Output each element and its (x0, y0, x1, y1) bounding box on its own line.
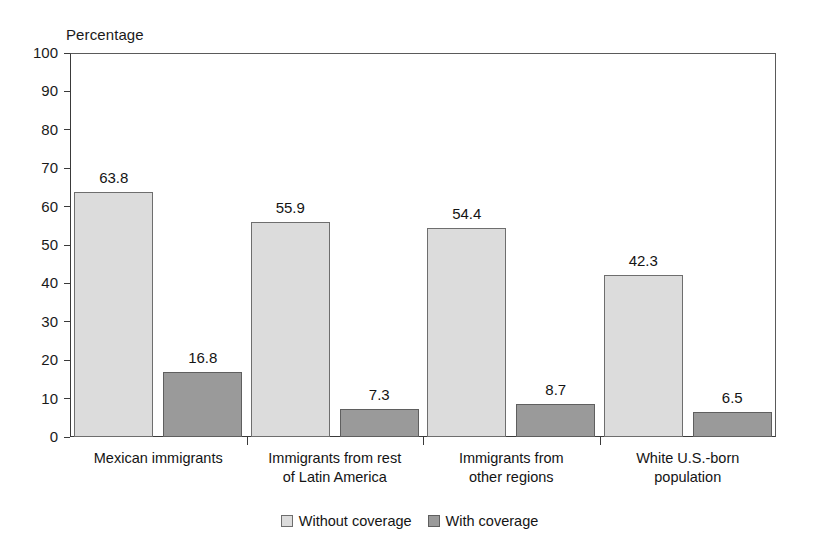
y-axis-tick-mark (64, 53, 70, 54)
y-axis-tick-mark (64, 129, 70, 130)
bar-value-label: 8.7 (516, 381, 595, 399)
x-axis-category-label: White U.S.-born population (600, 449, 777, 487)
chart-legend: Without coverageWith coverage (0, 512, 819, 530)
y-axis-tick-mark (64, 437, 70, 438)
y-axis-tick-mark (64, 168, 70, 169)
bar (604, 275, 683, 437)
y-axis-title: Percentage (66, 26, 144, 43)
x-axis-category-label: Immigrants from other regions (423, 449, 600, 487)
bar-value-label: 6.5 (693, 389, 772, 407)
y-axis-tick-label: 50 (41, 235, 58, 255)
y-axis-tick-mark (64, 91, 70, 92)
legend-item[interactable]: Without coverage (281, 512, 412, 530)
legend-label: With coverage (446, 512, 539, 530)
y-axis-tick-label: 80 (41, 120, 58, 140)
y-axis-tick-label: 30 (41, 312, 58, 332)
y-axis-tick-label: 90 (41, 81, 58, 101)
bar-value-label: 63.8 (74, 169, 153, 187)
y-axis-tick-label: 20 (41, 350, 58, 370)
y-axis-tick-label: 100 (33, 43, 58, 63)
bar (163, 372, 242, 437)
y-axis-tick-label: 70 (41, 158, 58, 178)
y-axis-tick-mark (64, 321, 70, 322)
x-axis-group-separator (600, 437, 601, 445)
y-axis-tick-label: 40 (41, 273, 58, 293)
y-axis-tick-mark (64, 398, 70, 399)
bar-value-label: 7.3 (340, 386, 419, 404)
bar (427, 228, 506, 437)
y-axis-tick-label: 10 (41, 389, 58, 409)
legend-swatch-icon (281, 515, 293, 527)
y-axis-tick-label: 0 (50, 427, 58, 447)
x-axis-group-separator (247, 437, 248, 445)
x-axis-group-separator (423, 437, 424, 445)
bar-chart: Percentage 1009080706050403020100 63.816… (0, 0, 819, 549)
y-axis-tick-mark (64, 283, 70, 284)
x-axis-category-label: Immigrants from rest of Latin America (247, 449, 424, 487)
y-axis-tick-mark (64, 206, 70, 207)
bar (74, 192, 153, 437)
legend-label: Without coverage (299, 512, 412, 530)
legend-item[interactable]: With coverage (428, 512, 539, 530)
bar-value-label: 54.4 (427, 205, 506, 223)
legend-swatch-icon (428, 515, 440, 527)
bar (340, 409, 419, 437)
y-axis-tick-mark (64, 360, 70, 361)
bar (516, 404, 595, 437)
bar-value-label: 55.9 (251, 199, 330, 217)
x-axis-category-label: Mexican immigrants (70, 449, 247, 468)
y-axis-tick-mark (64, 245, 70, 246)
bar (251, 222, 330, 437)
bar (693, 412, 772, 437)
bar-value-label: 16.8 (163, 349, 242, 367)
bar-value-label: 42.3 (604, 252, 683, 270)
y-axis-tick-label: 60 (41, 197, 58, 217)
